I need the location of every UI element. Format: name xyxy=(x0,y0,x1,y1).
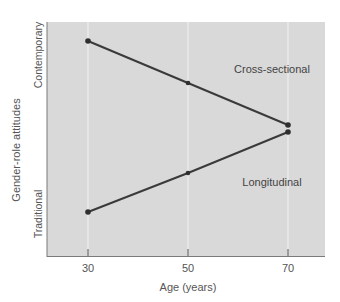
cross-sectional-point-30 xyxy=(85,38,91,44)
x-axis-label: Age (years) xyxy=(160,281,217,293)
line-chart: 30 50 70 Age (years) Contemporary Tradit… xyxy=(0,0,340,302)
y-tick-label-contemporary: Contemporary xyxy=(32,21,44,88)
longitudinal-point-70 xyxy=(285,129,291,135)
y-axis-label: Gender-role attitudes xyxy=(10,98,22,202)
longitudinal-point-30 xyxy=(85,209,91,215)
y-tick-label-traditional: Traditional xyxy=(32,190,44,239)
cross-sectional-point-50 xyxy=(186,81,191,86)
x-tick-label-50: 50 xyxy=(182,262,194,274)
cross-sectional-point-70 xyxy=(285,122,291,128)
x-tick-label-30: 30 xyxy=(82,262,94,274)
plot-area xyxy=(47,22,325,256)
series-label-cross-sectional: Cross-sectional xyxy=(234,63,310,75)
longitudinal-point-50 xyxy=(186,171,191,176)
series-label-longitudinal: Longitudinal xyxy=(242,176,301,188)
x-tick-label-70: 70 xyxy=(282,262,294,274)
